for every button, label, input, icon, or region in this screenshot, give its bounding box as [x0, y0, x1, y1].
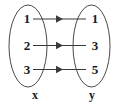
mapping-arrow-3 — [33, 66, 86, 74]
range-element-1: 1 — [88, 12, 102, 26]
domain-element-3: 3 — [20, 63, 34, 77]
domain-set-label: x — [27, 89, 43, 102]
range-element-3: 5 — [88, 63, 102, 77]
range-element-2: 3 — [88, 39, 102, 53]
domain-element-2: 2 — [20, 39, 34, 53]
mapping-diagram: 1 2 3 1 3 5 x y — [0, 0, 119, 105]
range-set-label: y — [84, 89, 100, 102]
domain-element-1: 1 — [20, 12, 34, 26]
mapping-arrow-2 — [33, 42, 86, 50]
